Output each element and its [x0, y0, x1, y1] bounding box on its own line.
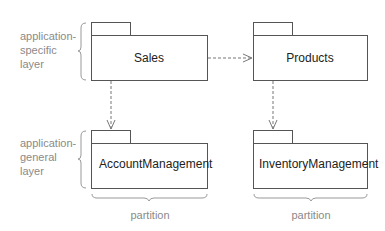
- package-products[interactable]: Products: [254, 23, 368, 81]
- package-tab: [92, 131, 131, 144]
- package-label: InventoryManagement: [259, 157, 379, 171]
- brace-icon: [254, 194, 367, 201]
- partition-label: partition: [130, 209, 169, 221]
- dependency-products-inventory: [269, 81, 277, 129]
- package-account-management[interactable]: AccountManagement: [92, 131, 214, 189]
- dependency-sales-products: [208, 54, 252, 62]
- brace-icon: [92, 194, 207, 201]
- layer-label-specific: application- specific layer: [20, 30, 79, 70]
- package-sales[interactable]: Sales: [92, 23, 208, 81]
- package-tab: [254, 23, 293, 36]
- package-label: AccountManagement: [99, 157, 213, 171]
- layer-label-general: application- general layer: [20, 137, 79, 177]
- package-inventory-management[interactable]: InventoryManagement: [254, 131, 380, 189]
- package-label: Sales: [134, 51, 164, 65]
- package-tab: [254, 131, 293, 144]
- dependency-sales-account: [107, 81, 115, 129]
- partition-label: partition: [291, 209, 330, 221]
- package-diagram: Sales Products AccountManagement Invento…: [0, 0, 385, 231]
- package-label: Products: [286, 51, 333, 65]
- package-tab: [92, 23, 131, 36]
